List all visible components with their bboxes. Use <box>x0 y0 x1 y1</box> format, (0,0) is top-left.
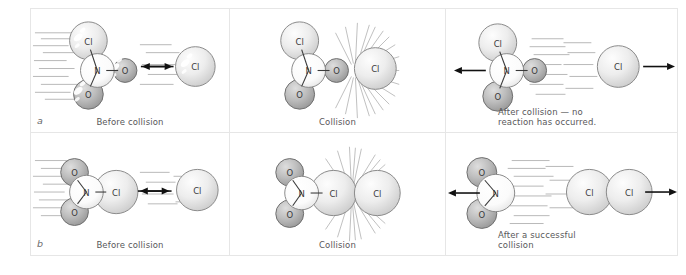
panel-b3-caption-line1: After a successful <box>498 230 677 241</box>
panel-a3-caption: After collision — no reaction has occurr… <box>446 107 677 128</box>
speed-lines <box>506 161 576 224</box>
panel-a2-collision: Cl O O N Cl Collision <box>230 8 446 132</box>
atom-label-cl-free: Cl <box>191 62 199 72</box>
panel-b3-after-successful-collision: O O N Cl Cl After a successfu <box>446 132 678 256</box>
panel-b2-collision: O O Cl N Cl Collision <box>230 132 446 256</box>
atom-label-cl1: Cl <box>585 188 593 198</box>
panel-b1-illustration: O O Cl N Cl <box>31 133 229 255</box>
atom-label-cl: Cl <box>296 37 304 47</box>
molecule-no2cl: Cl O O N <box>479 24 547 111</box>
free-chlorine-atom: Cl <box>176 47 216 87</box>
atom-label-cl-free: Cl <box>193 186 201 196</box>
atom-label-n: N <box>299 189 305 199</box>
panel-b1-before-collision: O O Cl N Cl b Before collision <box>30 132 230 256</box>
atom-label-o2: O <box>286 210 293 220</box>
panel-a2-illustration: Cl O O N Cl <box>230 9 445 132</box>
atom-label-o1: O <box>71 168 78 178</box>
panel-b3-caption: After a successful collision <box>446 230 677 251</box>
atom-label-o2: O <box>479 210 486 220</box>
arrow-left <box>448 189 480 196</box>
free-chlorine-atom: Cl <box>354 170 400 215</box>
panel-a1-caption: Before collision <box>31 117 229 128</box>
atom-label-n: N <box>83 188 89 198</box>
arrow-right <box>643 63 675 70</box>
atom-label-o2: O <box>531 66 538 76</box>
atom-label-o2: O <box>333 66 340 76</box>
atom-label-cl-free: Cl <box>371 64 379 74</box>
figure-collision-theory: Cl O O N Cl a Before collision <box>0 0 686 275</box>
atom-label-o2: O <box>71 208 78 218</box>
atom-label-cl: Cl <box>494 39 502 49</box>
arrow-left <box>140 188 172 195</box>
atom-label-o1: O <box>286 168 293 178</box>
molecule-no2cl: Cl O O N <box>70 22 137 109</box>
panel-a2-caption: Collision <box>230 117 445 128</box>
panel-a3-caption-line1: After collision — no <box>498 107 677 118</box>
atom-label-n: N <box>493 189 499 199</box>
molecule-no2cl: O O Cl N <box>61 159 138 226</box>
panel-a3-caption-line2: reaction has occurred. <box>498 117 677 128</box>
arrow-left <box>142 63 174 70</box>
atom-label-o: O <box>85 90 92 100</box>
panel-a1-illustration: Cl O O N Cl <box>31 9 229 132</box>
panel-b2-caption: Collision <box>230 240 445 251</box>
atom-label-cl2: Cl <box>625 188 633 198</box>
molecule-no2cl: O O Cl N <box>276 159 357 228</box>
atom-label-o: O <box>296 90 303 100</box>
atom-label-n: N <box>504 66 510 76</box>
atom-label-o: O <box>494 92 501 102</box>
atom-label-o2: O <box>122 66 129 76</box>
panel-a3-after-collision: Cl O O N Cl After collision — no reactio… <box>446 8 678 132</box>
panel-b1-caption: Before collision <box>31 240 229 251</box>
atom-label-cl: Cl <box>84 37 92 47</box>
atom-label-n: N <box>305 66 311 76</box>
atom-label-cl-free: Cl <box>614 63 622 73</box>
free-chlorine-atom: Cl <box>177 169 219 210</box>
atom-label-cl: Cl <box>112 188 120 198</box>
atom-label-n: N <box>94 66 100 76</box>
arrow-left <box>454 67 486 74</box>
panel-a1-before-collision: Cl O O N Cl a Before collision <box>30 8 230 132</box>
atom-label-o1: O <box>479 168 486 178</box>
panel-b2-illustration: O O Cl N Cl <box>230 133 445 255</box>
panel-b3-caption-line2: collision <box>498 240 677 251</box>
atom-label-cl-free: Cl <box>373 189 381 199</box>
free-chlorine-atom: Cl <box>354 48 396 90</box>
free-chlorine-atom: Cl <box>597 46 639 88</box>
molecule-no2cl: Cl O O N <box>281 22 349 109</box>
molecule-cl2-product: Cl Cl <box>566 169 652 214</box>
atom-label-cl: Cl <box>329 189 337 199</box>
panel-grid: Cl O O N Cl a Before collision <box>30 8 678 266</box>
